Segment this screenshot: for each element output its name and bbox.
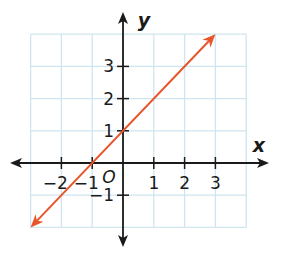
y-tick-label: 2 xyxy=(103,89,114,109)
y-axis-label: y xyxy=(138,9,152,31)
x-tick-label: −2 xyxy=(43,173,68,193)
y-tick-label: −1 xyxy=(89,185,114,205)
x-tick-label: 3 xyxy=(210,173,221,193)
grid xyxy=(31,34,247,227)
axes xyxy=(10,12,269,247)
x-axis-label: x xyxy=(252,134,266,156)
x-tick-label: 2 xyxy=(179,173,190,193)
origin-label: O xyxy=(102,167,115,187)
y-tick-label: 1 xyxy=(103,121,114,141)
coordinate-plane: −2−1123−1123 x y O xyxy=(0,0,281,255)
y-tick-label: 3 xyxy=(103,56,114,76)
x-tick-label: 1 xyxy=(148,173,159,193)
